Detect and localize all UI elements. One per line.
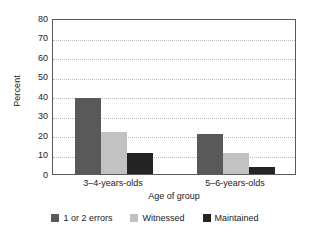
y-axis-title: Percent (12, 51, 22, 131)
y-tick-label: 80 (24, 15, 48, 24)
bar (249, 167, 275, 174)
legend-label: 1 or 2 errors (63, 213, 112, 223)
legend-item[interactable]: Maintained (203, 213, 259, 223)
x-tick-label: 5–6-years-olds (175, 178, 295, 189)
x-axis-tick-labels: 3–4-years-olds5–6-years-olds (52, 178, 296, 192)
legend-item[interactable]: Witnessed (130, 213, 184, 223)
y-tick-label: 70 (24, 34, 48, 43)
legend-label: Maintained (215, 213, 259, 223)
y-axis-tick-labels: 01020304050607080 (24, 19, 48, 175)
legend-item[interactable]: 1 or 2 errors (51, 213, 112, 223)
y-tick-label: 50 (24, 73, 48, 82)
legend-swatch-icon (51, 214, 59, 222)
bar (75, 98, 101, 174)
legend-swatch-icon (130, 214, 138, 222)
chart-legend: 1 or 2 errorsWitnessedMaintained (0, 213, 310, 223)
y-tick-label: 0 (24, 171, 48, 180)
bar (223, 153, 249, 174)
legend-swatch-icon (203, 214, 211, 222)
y-tick-label: 20 (24, 132, 48, 141)
x-tick-label: 3–4-years-olds (53, 178, 173, 189)
bar (197, 134, 223, 174)
plot-area (52, 19, 296, 175)
y-tick-label: 60 (24, 54, 48, 63)
bars-layer (53, 20, 295, 174)
bar (127, 153, 153, 174)
legend-label: Witnessed (142, 213, 184, 223)
y-tick-label: 10 (24, 151, 48, 160)
bar (101, 132, 127, 174)
bar-chart: Percent 01020304050607080 3–4-years-olds… (0, 0, 310, 237)
y-tick-label: 30 (24, 112, 48, 121)
x-axis-title: Age of group (52, 191, 296, 202)
y-tick-label: 40 (24, 93, 48, 102)
